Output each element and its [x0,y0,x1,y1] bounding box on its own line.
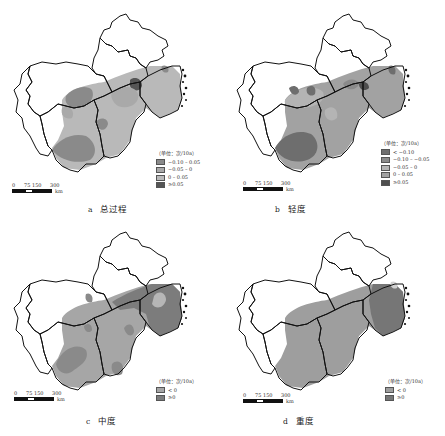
scale-ticks: 0 75 150 300 [14,390,84,396]
caption-b: b轻度 [275,202,306,214]
legend-title: （单位：次/10a） [156,378,197,386]
legend-title: （单位：次/10a） [381,140,429,148]
legend-item: < −0.10 [381,149,429,157]
scale-graphic: km [243,398,313,404]
trend-fill [52,284,182,388]
scale-ticks: 0 75 150 300 [243,392,313,398]
legend-swatch [385,395,394,401]
panel-a-total: （单位：次/10a） −0.10 – 0.05 −0.05 – 0 0 – 0.… [0,0,222,218]
scale-graphic: km [12,188,82,194]
legend-item: ≥0.05 [381,179,429,187]
panel-d-severe: （单位：次/10a） < 0 ≥0 0 75 150 300 km d重度 [223,218,445,436]
caption-c: c中度 [86,414,116,426]
scale-bar: 0 75 150 300 km [12,182,82,194]
legend-light: （单位：次/10a） < −0.10 −0.10 – −0.05 −0.05 –… [381,140,429,187]
legend-swatch [381,172,390,178]
legend-item: ≥0.05 [156,181,200,189]
scale-ticks: 0 75 150 300 [243,180,313,186]
panel-c-moderate: （单位：次/10a） < 0 ≥0 0 75 150 300 km c中度 [0,218,222,436]
legend-severe: （单位：次/10a） < 0 ≥0 [385,378,426,402]
legend-item: −0.10 – −0.05 [381,156,429,164]
legend-swatch [156,167,165,173]
scale-graphic: km [14,396,84,402]
legend-swatch [156,175,165,181]
panel-b-light: （单位：次/10a） < −0.10 −0.10 – −0.05 −0.05 –… [223,0,445,218]
legend-total: （单位：次/10a） −0.10 – 0.05 −0.05 – 0 0 – 0.… [156,150,200,189]
legend-swatch [156,182,165,188]
legend-item: ≥0 [385,394,426,402]
legend-item: < 0 [156,387,197,395]
legend-item: ≥0 [156,394,197,402]
scale-bar: 0 75 150 300 km [243,392,313,404]
caption-a: a总过程 [88,202,127,214]
legend-swatch [381,165,390,171]
legend-swatch [385,387,394,393]
legend-swatch [156,387,165,393]
caption-d: d重度 [283,414,314,426]
legend-item: −0.10 – 0.05 [156,159,200,167]
legend-swatch [156,159,165,165]
legend-title: （单位：次/10a） [385,378,426,386]
legend-item: 0 – 0.05 [156,174,200,182]
legend-item: < 0 [385,387,426,395]
legend-item: 0 – 0.05 [381,171,429,179]
scale-bar: 0 75 150 300 km [243,180,313,192]
legend-title: （单位：次/10a） [156,150,200,158]
scale-ticks: 0 75 150 300 [12,182,82,188]
legend-item: −0.05 – 0 [381,164,429,172]
legend-item: −0.05 – 0 [156,166,200,174]
legend-moderate: （单位：次/10a） < 0 ≥0 [156,378,197,402]
legend-swatch [381,149,390,155]
legend-swatch [381,157,390,163]
legend-swatch [381,180,390,186]
scale-bar: 0 75 150 300 km [14,390,84,402]
legend-swatch [156,395,165,401]
scale-graphic: km [243,186,313,192]
